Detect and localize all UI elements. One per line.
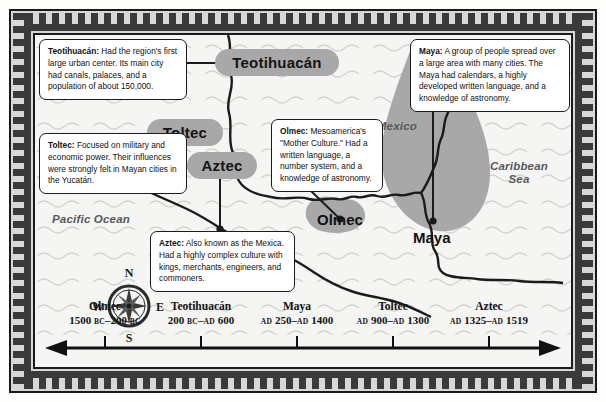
timeline-tick — [392, 336, 394, 349]
callout-teotihuacan[interactable]: Teotihuacán: Had the region's first larg… — [39, 39, 187, 100]
callout-maya-title: Maya: — [419, 46, 443, 56]
map-label-aztec[interactable]: Aztec — [187, 152, 257, 179]
timeline: Olmec1500 BC–200 BCTeotihuacán200 BC–AD … — [33, 300, 573, 368]
callout-teotihuacan-title: Teotihuacán: — [48, 46, 99, 56]
timeline-entry-name: Teotihuacán — [168, 300, 234, 313]
timeline-tick — [296, 336, 298, 349]
timeline-entry-olmec[interactable]: Olmec1500 BC–200 BC — [69, 300, 141, 326]
timeline-entry-aztec[interactable]: AztecAD 1325–AD 1519 — [450, 300, 528, 326]
timeline-entry-toltec[interactable]: ToltecAD 900–AD 1300 — [357, 300, 429, 326]
callout-aztec[interactable]: Aztec: Also known as the Mexica. Had a h… — [150, 231, 295, 292]
timeline-entry-name: Maya — [261, 300, 333, 313]
timeline-entry-name: Olmec — [69, 300, 141, 313]
timeline-entry-range: 200 BC–AD 600 — [168, 314, 234, 326]
fret-border-right — [575, 13, 593, 389]
timeline-entry-range: AD 1325–AD 1519 — [450, 314, 528, 326]
timeline-entry-teotihuacn[interactable]: Teotihuacán200 BC–AD 600 — [168, 300, 234, 326]
callout-maya[interactable]: Maya: A group of people spread over a la… — [410, 39, 570, 112]
timeline-arrow-left — [45, 340, 67, 356]
timeline-tick — [488, 336, 490, 349]
map-label-teotihuacan[interactable]: Teotihuacán — [215, 49, 339, 76]
map-label-maya-text: Maya — [413, 229, 451, 246]
fret-border-bottom — [13, 371, 593, 389]
timeline-entry-name: Aztec — [450, 300, 528, 313]
timeline-entry-range: AD 900–AD 1300 — [357, 314, 429, 326]
timeline-tick — [104, 336, 106, 349]
compass-north-label: N — [125, 266, 134, 280]
timeline-entry-maya[interactable]: MayaAD 250–AD 1400 — [261, 300, 333, 326]
timeline-entry-range: AD 250–AD 1400 — [261, 314, 333, 326]
timeline-entry-name: Toltec — [357, 300, 429, 313]
timeline-arrow-right — [539, 340, 561, 356]
map-label-teotihuacan-text: Teotihuacán — [232, 54, 321, 71]
timeline-entry-range: 1500 BC–200 BC — [69, 314, 141, 326]
map-label-maya[interactable]: Maya — [413, 229, 451, 246]
callout-toltec[interactable]: Toltec: Focused on military and economic… — [39, 133, 187, 194]
ocean-label-pacific: Pacific Ocean — [52, 213, 130, 226]
callout-aztec-title: Aztec: — [159, 238, 184, 248]
map-label-olmec[interactable]: Olmec — [317, 211, 363, 228]
timeline-tick — [200, 336, 202, 349]
callout-olmec[interactable]: Olmec: Mesoamerica's "Mother Culture." H… — [271, 119, 383, 192]
callout-toltec-title: Toltec: — [48, 140, 75, 150]
map-label-aztec-text: Aztec — [201, 157, 242, 174]
callout-olmec-title: Olmec: — [280, 126, 308, 136]
fret-border-left — [13, 13, 31, 389]
map-label-olmec-text: Olmec — [317, 211, 363, 228]
ocean-label-caribbean: Caribbean Sea — [490, 160, 548, 186]
infographic-root: Pacific Ocean Gulf of Mexico Caribbean S… — [0, 0, 606, 402]
fret-border-top — [13, 13, 593, 31]
